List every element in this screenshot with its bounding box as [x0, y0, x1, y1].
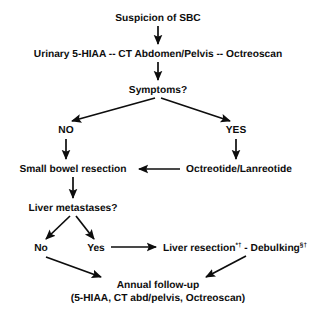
debulking-superscript: §† — [300, 242, 308, 249]
node-suspicion-of-sbc: Suspicion of SBC — [115, 13, 201, 24]
resection-debulking-separator: - — [242, 243, 251, 254]
node-annual-followup-detail: (5-HIAA, CT abd/pelvis, Octreoscan) — [71, 293, 245, 304]
debulking-label: Debulking — [251, 243, 300, 254]
arrow-symptoms-to-yes — [161, 98, 230, 121]
branch-label-mets-yes: Yes — [87, 243, 105, 254]
liver-resection-label: Liver resection — [163, 243, 235, 254]
branch-label-mets-no: No — [34, 243, 48, 254]
arrow-liver-mets-to-no — [46, 216, 70, 239]
node-annual-followup-title: Annual follow-up — [117, 280, 200, 291]
node-initial-workup: Urinary 5-HIAA -- CT Abdomen/Pelvis -- O… — [34, 49, 282, 60]
branch-label-yes: YES — [226, 125, 247, 136]
flowchart-canvas: Suspicion of SBC Urinary 5-HIAA -- CT Ab… — [0, 0, 316, 309]
node-small-bowel-resection: Small bowel resection — [19, 164, 126, 175]
node-liver-resection-debulking: Liver resection*† - Debulking§† — [163, 242, 307, 254]
arrow-liver-mets-to-yes — [76, 216, 94, 239]
flowchart-diagram: Suspicion of SBC Urinary 5-HIAA -- CT Ab… — [0, 0, 316, 309]
node-liver-metastases-decision: Liver metastases? — [29, 203, 118, 214]
arrow-symptoms-to-no — [72, 98, 155, 121]
arrow-mets-no-to-followup — [46, 257, 101, 277]
node-symptoms-decision: Symptoms? — [129, 85, 187, 96]
node-octreotide-lanreotide: Octreotide/Lanreotide — [186, 164, 292, 175]
branch-label-no: NO — [58, 125, 73, 136]
arrow-liver-resection-to-followup — [206, 256, 246, 277]
